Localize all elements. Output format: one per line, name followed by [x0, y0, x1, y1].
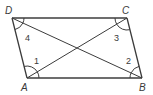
vertex-label-c: C — [122, 5, 130, 16]
vertex-label-d: D — [5, 5, 12, 16]
parallelogram-diagram: D C A B 1 2 3 4 — [0, 0, 153, 95]
angle-arc-4 — [15, 23, 23, 30]
diagonal-db — [12, 18, 142, 78]
angle-arc-d-small — [23, 18, 24, 23]
angle-arc-3 — [117, 24, 130, 30]
angle-label-3: 3 — [114, 33, 119, 43]
vertex-label-b: B — [139, 82, 146, 93]
angle-arc-1 — [24, 66, 37, 72]
angle-arc-2 — [131, 66, 139, 73]
angle-arc-c-small — [115, 18, 117, 24]
angle-label-2: 2 — [126, 56, 131, 66]
angle-label-1: 1 — [34, 56, 39, 66]
angle-arc-a-small — [37, 72, 39, 78]
vertex-label-a: A — [20, 82, 28, 93]
angle-label-4: 4 — [25, 33, 30, 43]
angle-arc-b-small — [130, 73, 131, 78]
